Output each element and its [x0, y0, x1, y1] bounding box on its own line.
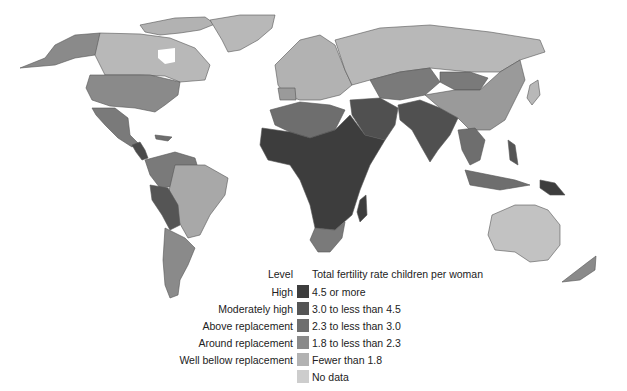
- legend-level-label: Moderately high: [150, 302, 293, 316]
- region-mongolia: [440, 72, 488, 90]
- region-new-zealand: [562, 256, 596, 282]
- region-arctic-islands: [140, 17, 215, 35]
- region-iberia: [278, 88, 296, 100]
- legend-item-around-replacement: Around replacement 1.8 to less than 2.3: [150, 336, 490, 350]
- legend-description-header: Total fertility rate children per woman: [312, 267, 483, 281]
- region-australia: [488, 205, 560, 262]
- region-indonesia: [465, 170, 530, 190]
- region-papua-new-guinea: [540, 180, 565, 195]
- region-japan: [527, 80, 540, 105]
- region-alaska: [20, 33, 105, 68]
- legend-range-label: Fewer than 1.8: [312, 353, 382, 367]
- legend-swatch: [297, 302, 309, 315]
- legend-swatch: [297, 336, 309, 349]
- region-caribbean: [155, 135, 172, 141]
- legend-item-moderately-high: Moderately high 3.0 to less than 4.5: [150, 302, 490, 316]
- legend-range-label: 4.5 or more: [312, 285, 366, 299]
- legend-range-label: 2.3 to less than 3.0: [312, 319, 401, 333]
- legend-item-high: High 4.5 or more: [150, 285, 490, 299]
- legend-swatch: [297, 285, 309, 298]
- region-brazil: [168, 165, 228, 238]
- legend-range-label: 1.8 to less than 2.3: [312, 336, 401, 350]
- legend-swatch: [297, 319, 309, 332]
- region-central-america: [132, 142, 148, 160]
- legend-level-label: Well bellow replacement: [150, 353, 293, 367]
- legend-level-header: Level: [150, 267, 293, 281]
- region-madagascar: [357, 195, 367, 222]
- region-united-states: [86, 75, 180, 112]
- legend-level-label: Above replacement: [150, 319, 293, 333]
- legend-item-no-data: No data: [150, 370, 490, 384]
- legend-range-label: No data: [312, 370, 349, 384]
- legend-swatch: [297, 370, 309, 383]
- region-canada: [95, 33, 210, 82]
- legend-range-label: 3.0 to less than 4.5: [312, 302, 401, 316]
- region-southeast-asia: [458, 128, 485, 165]
- region-greenland: [210, 15, 275, 52]
- legend-swatch: [297, 353, 309, 366]
- legend-level-label: High: [150, 285, 293, 299]
- region-philippines: [508, 140, 518, 165]
- legend-level-label: Around replacement: [150, 336, 293, 350]
- legend-item-well-below-replacement: Well bellow replacement Fewer than 1.8: [150, 353, 490, 367]
- legend-item-above-replacement: Above replacement 2.3 to less than 3.0: [150, 319, 490, 333]
- region-mexico: [92, 108, 138, 147]
